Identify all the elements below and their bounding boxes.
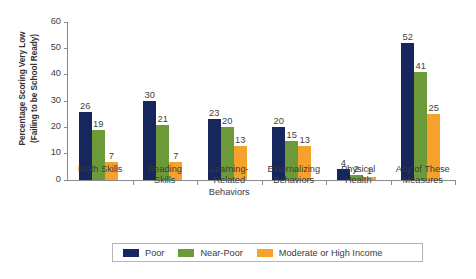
y-axis-tick-label: 0 xyxy=(56,174,61,184)
bar-cluster: 232013 xyxy=(208,22,247,180)
category-label-line: Behaviors xyxy=(262,175,327,186)
category-label-line: Externalizing xyxy=(262,164,327,175)
category-label-line: Math Skills xyxy=(68,164,133,175)
bar-value-label: 23 xyxy=(209,108,219,118)
y-axis-tick-label: 40 xyxy=(51,68,61,78)
y-axis-title: Percentage Scoring Very Low (Failing to … xyxy=(17,0,40,179)
category-label-line: Measures xyxy=(391,175,456,186)
bar-value-label: 26 xyxy=(80,101,90,111)
x-axis-category-label: ExternalizingBehaviors xyxy=(262,164,327,187)
bar-value-label: 52 xyxy=(403,32,413,42)
bar-value-label: 7 xyxy=(173,151,178,161)
x-axis-category-label: ReadingSkills xyxy=(133,164,198,187)
bar-value-label: 19 xyxy=(93,119,103,129)
legend-swatch xyxy=(123,249,139,257)
category-label-line: Learning- xyxy=(197,164,262,175)
x-axis-category-label: PhysicalHealth xyxy=(326,164,391,187)
legend-label: Poor xyxy=(145,248,164,258)
y-axis-tick-label: 10 xyxy=(51,147,61,157)
legend-swatch xyxy=(178,249,194,257)
category-label-line: Any of These xyxy=(391,164,456,175)
bar-value-label: 13 xyxy=(235,135,245,145)
bar-value-label: 15 xyxy=(287,130,297,140)
bar-group: 232013 xyxy=(197,22,262,180)
bar-value-label: 25 xyxy=(429,103,439,113)
legend-item[interactable]: Near-Poor xyxy=(178,248,242,258)
category-label-line: Physical xyxy=(326,164,391,175)
bar-chart: Percentage Scoring Very Low (Failing to … xyxy=(0,0,476,279)
legend-label: Near-Poor xyxy=(200,248,242,258)
chart-legend: PoorNear-PoorModerate or High Income xyxy=(112,243,423,262)
y-axis-title-line-1: Percentage Scoring Very Low xyxy=(17,0,29,179)
bar-group: 26197 xyxy=(68,22,133,180)
bar-group: 201513 xyxy=(262,22,327,180)
category-label-line: Skills xyxy=(133,175,198,186)
y-axis-title-line-2: (Failing to be School Ready) xyxy=(28,0,40,179)
y-axis-tick-label: 60 xyxy=(51,16,61,26)
bar-group: 421 xyxy=(326,22,391,180)
bar-cluster: 30217 xyxy=(143,22,182,180)
bar-value-label: 21 xyxy=(158,114,168,124)
bar-cluster: 201513 xyxy=(272,22,311,180)
bar-group: 524125 xyxy=(391,22,456,180)
bar-group: 30217 xyxy=(133,22,198,180)
bar-cluster: 26197 xyxy=(79,22,118,180)
bar-cluster: 421 xyxy=(337,22,376,180)
x-axis-category-label: Any of TheseMeasures xyxy=(391,164,456,187)
bar-value-label: 20 xyxy=(222,116,232,126)
x-axis-category-label: Math Skills xyxy=(68,164,133,175)
bar[interactable]: 52 xyxy=(401,43,414,180)
category-label-line: Reading xyxy=(133,164,198,175)
category-label-line: Behaviors xyxy=(197,187,262,198)
category-label-line: Health xyxy=(326,175,391,186)
y-axis-tick-label: 50 xyxy=(51,42,61,52)
bar-value-label: 7 xyxy=(109,151,114,161)
bar-value-label: 41 xyxy=(416,61,426,71)
bar-value-label: 13 xyxy=(300,135,310,145)
bar-cluster: 524125 xyxy=(401,22,440,180)
legend-label: Moderate or High Income xyxy=(279,248,383,258)
x-axis-category-label: Learning-RelatedBehaviors xyxy=(197,164,262,198)
legend-swatch xyxy=(257,249,273,257)
legend-item[interactable]: Poor xyxy=(123,248,164,258)
category-label-line: Related xyxy=(197,175,262,186)
legend-item[interactable]: Moderate or High Income xyxy=(257,248,383,258)
y-axis-tick-label: 20 xyxy=(51,121,61,131)
bar-value-label: 30 xyxy=(145,90,155,100)
plot-area: 0102030405060 26197302172320132015134215… xyxy=(68,22,455,180)
y-axis-tick-label: 30 xyxy=(51,95,61,105)
bar-value-label: 20 xyxy=(274,116,284,126)
x-axis-separator xyxy=(455,180,456,185)
